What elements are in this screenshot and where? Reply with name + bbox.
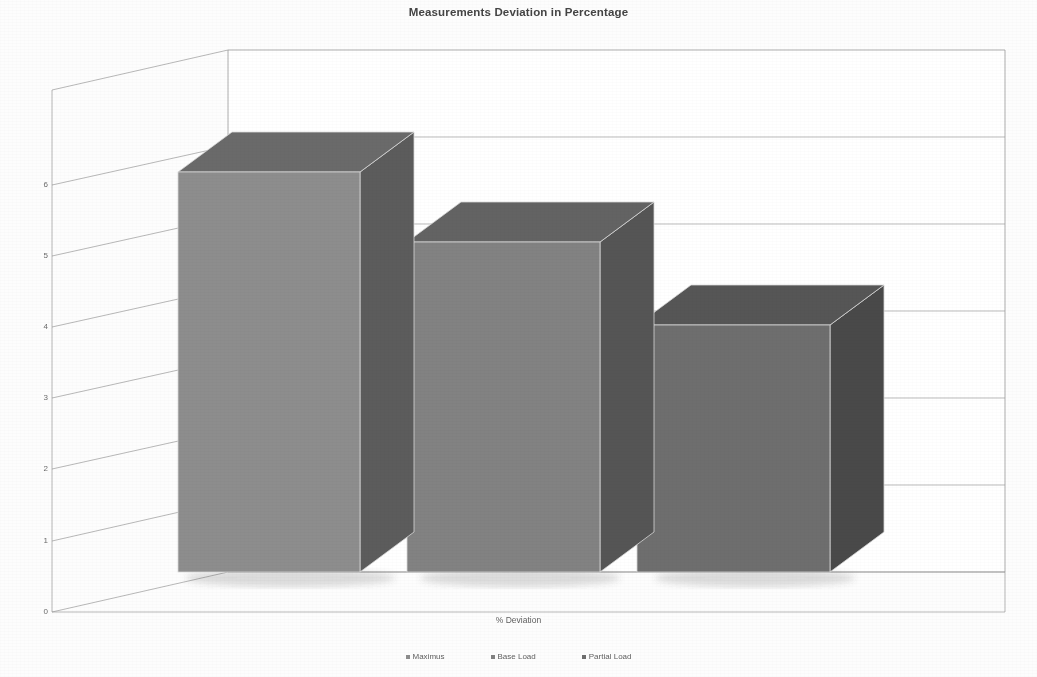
x-axis-title: % Deviation — [0, 615, 1037, 625]
bar-base-load — [407, 202, 654, 572]
bar-maximus — [178, 132, 414, 572]
legend-item-partial-load[interactable]: Partial Load — [582, 652, 632, 661]
legend-swatch-icon — [406, 655, 410, 659]
chart-plot-area — [0, 0, 1037, 677]
legend-swatch-icon — [582, 655, 586, 659]
y-tick-3: 3 — [26, 393, 48, 402]
y-tick-6: 6 — [26, 180, 48, 189]
y-tick-1: 1 — [26, 536, 48, 545]
legend-label: Base Load — [498, 652, 536, 661]
legend-label: Maximus — [413, 652, 445, 661]
chart-legend: Maximus Base Load Partial Load — [0, 652, 1037, 661]
chart-page: Measurements Deviation in Percentage — [0, 0, 1037, 677]
y-tick-5: 5 — [26, 251, 48, 260]
legend-item-base-load[interactable]: Base Load — [491, 652, 536, 661]
legend-label: Partial Load — [589, 652, 632, 661]
y-tick-4: 4 — [26, 322, 48, 331]
legend-item-maximus[interactable]: Maximus — [406, 652, 445, 661]
legend-swatch-icon — [491, 655, 495, 659]
y-tick-2: 2 — [26, 464, 48, 473]
bar-partial-load — [637, 285, 884, 572]
